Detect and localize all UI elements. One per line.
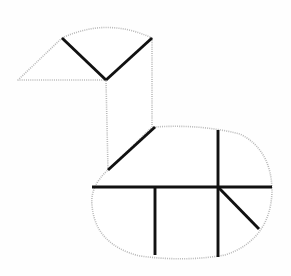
figure-root [0,0,291,276]
outline-group [18,28,272,259]
swan-dissection-figure [0,0,291,276]
